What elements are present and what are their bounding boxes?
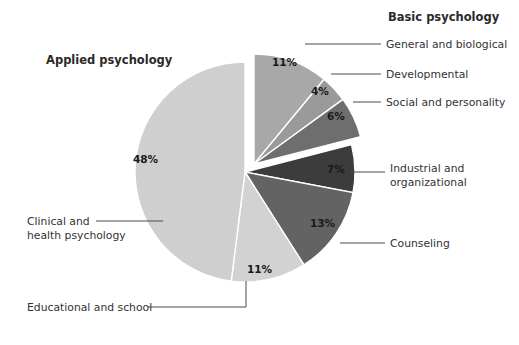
percent-label-developmental: 4% [311,85,329,97]
pie-chart-figure: 48% 11% 13% 7% 11% 4% 6% Basic psycholog… [0,0,519,345]
label-general-and-biological: General and biological [386,38,507,51]
label-clinical-line1: Clinical and [27,215,90,228]
percent-label-educational: 11% [247,263,273,275]
pie-chart-canvas: 48% 11% 13% 7% 11% 4% 6% Basic psycholog… [0,0,519,345]
percent-label-social-and-personality: 6% [327,110,345,122]
label-counseling: Counseling [390,237,450,250]
percent-label-general-and-biological: 11% [272,56,298,68]
label-industrial-line2: organizational [390,176,467,189]
leader-line-educational [148,281,246,307]
label-clinical-line2: health psychology [27,229,126,242]
percent-label-counseling: 13% [310,217,336,229]
label-industrial-line1: Industrial and [390,162,464,175]
percent-label-clinical: 48% [133,153,159,165]
slice-clinical-and-health-psychology[interactable] [135,62,245,281]
label-social-and-personality: Social and personality [386,96,506,109]
percent-label-industrial: 7% [327,163,345,175]
group-title-basic-psychology: Basic psychology [388,10,500,24]
label-developmental: Developmental [386,68,468,81]
group-title-applied-psychology: Applied psychology [46,53,173,67]
label-educational-and-school: Educational and school [27,301,152,314]
